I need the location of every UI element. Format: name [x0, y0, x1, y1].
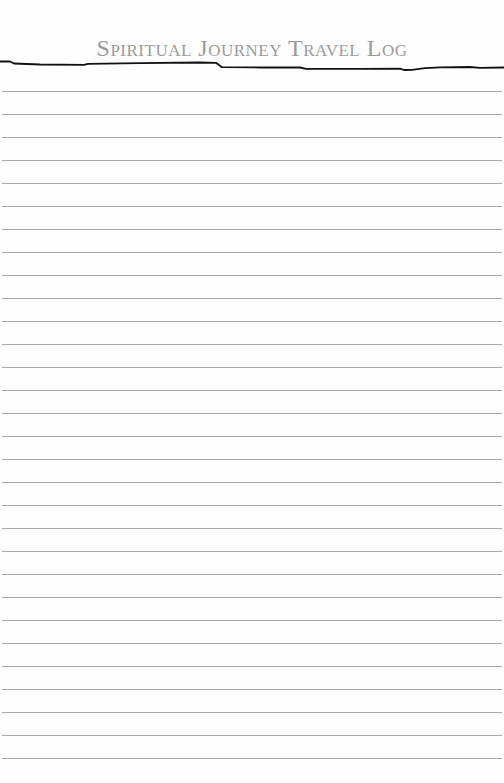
ruled-lines-area	[0, 0, 504, 783]
ruled-line	[2, 183, 502, 184]
ruled-line	[2, 206, 502, 207]
ruled-line	[2, 505, 502, 506]
ruled-line	[2, 574, 502, 575]
ruled-line	[2, 344, 502, 345]
ruled-line	[2, 597, 502, 598]
ruled-line	[2, 666, 502, 667]
ruled-line	[2, 367, 502, 368]
ruled-line	[2, 528, 502, 529]
journal-page: Spiritual Journey Travel Log	[0, 0, 504, 783]
ruled-line	[2, 712, 502, 713]
ruled-line	[2, 275, 502, 276]
ruled-line	[2, 482, 502, 483]
ruled-line	[2, 643, 502, 644]
ruled-line	[2, 436, 502, 437]
ruled-line	[2, 459, 502, 460]
ruled-line	[2, 91, 502, 92]
ruled-line	[2, 413, 502, 414]
ruled-line	[2, 321, 502, 322]
ruled-line	[2, 551, 502, 552]
ruled-line	[2, 160, 502, 161]
ruled-line	[2, 689, 502, 690]
ruled-line	[2, 735, 502, 736]
ruled-line	[2, 620, 502, 621]
ruled-line	[2, 229, 502, 230]
ruled-line	[2, 252, 502, 253]
ruled-line	[2, 298, 502, 299]
ruled-line	[2, 390, 502, 391]
ruled-line	[2, 758, 502, 759]
ruled-line	[2, 114, 502, 115]
ruled-line	[2, 137, 502, 138]
